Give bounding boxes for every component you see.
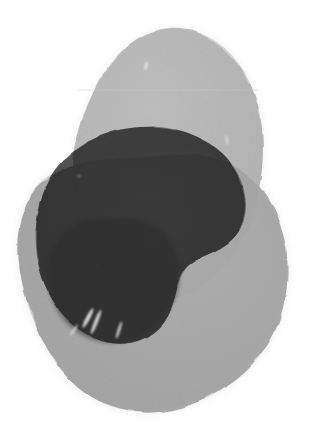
- artboard: Abstract Ink Wash Composition Three over…: [0, 0, 316, 444]
- paper-speck-dark-blob: [77, 175, 82, 178]
- abstract-composition: [0, 0, 316, 444]
